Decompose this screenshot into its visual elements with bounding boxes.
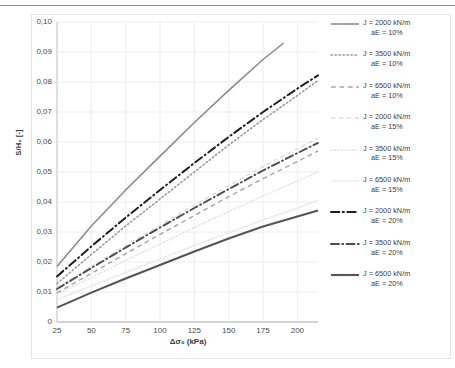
legend-item: J = 2000 kN/maE = 15% xyxy=(330,112,448,134)
legend-line-swatch xyxy=(330,237,360,251)
legend-item: J = 2000 kN/maE = 20% xyxy=(330,206,448,228)
series-line xyxy=(57,172,318,294)
y-tick-label: 0,10 xyxy=(18,17,52,26)
legend-label-line2: aE = 20% xyxy=(363,248,410,258)
series-line xyxy=(57,210,318,307)
legend-item: J = 2000 kN/maE = 10% xyxy=(330,18,448,40)
legend-label: J = 6500 kN/maE = 10% xyxy=(363,81,410,101)
legend-item: J = 6500 kN/maE = 15% xyxy=(330,175,448,197)
legend-label-line2: aE = 15% xyxy=(363,122,410,132)
legend-label-line1: J = 2000 kN/m xyxy=(363,206,410,215)
legend-label: J = 2000 kN/maE = 15% xyxy=(363,112,410,132)
legend-line-swatch xyxy=(330,205,360,219)
y-tick-label: 0,07 xyxy=(18,107,52,116)
legend-label: J = 6500 kN/maE = 15% xyxy=(363,175,410,195)
series-line xyxy=(57,75,318,276)
legend-item: J = 6500 kN/maE = 10% xyxy=(330,81,448,103)
legend-item: J = 3500 kN/maE = 20% xyxy=(330,238,448,260)
chart-legend: J = 2000 kN/maE = 10%J = 3500 kN/maE = 1… xyxy=(330,18,448,301)
y-tick-label: 0,05 xyxy=(18,167,52,176)
legend-label: J = 6500 kN/maE = 20% xyxy=(363,269,410,289)
legend-line-swatch xyxy=(330,174,360,188)
legend-label-line2: aE = 10% xyxy=(363,59,410,69)
legend-label-line2: aE = 15% xyxy=(363,153,410,163)
legend-label-line1: J = 6500 kN/m xyxy=(363,269,410,278)
y-tick-label: 0,01 xyxy=(18,287,52,296)
legend-line-swatch xyxy=(330,143,360,157)
y-tick-label: 0,04 xyxy=(18,197,52,206)
legend-label-line2: aE = 15% xyxy=(363,185,410,195)
legend-line-swatch xyxy=(330,268,360,282)
legend-label-line2: aE = 10% xyxy=(363,28,410,38)
legend-label: J = 2000 kN/maE = 20% xyxy=(363,206,410,226)
y-tick-label: 0,02 xyxy=(18,257,52,266)
legend-label-line2: aE = 20% xyxy=(363,279,410,289)
legend-item: J = 3500 kN/maE = 15% xyxy=(330,144,448,166)
legend-label: J = 3500 kN/maE = 10% xyxy=(363,49,410,69)
series-line xyxy=(57,143,318,289)
legend-label-line1: J = 6500 kN/m xyxy=(363,81,410,90)
x-axis-title: Δσ₀ (kPa) xyxy=(57,337,319,346)
chart-figure: S/H₀ [-] Δσ₀ (kPa) 00,010,020,030,040,05… xyxy=(0,0,455,368)
y-tick-label: 0 xyxy=(18,317,52,326)
y-tick-label: 0,03 xyxy=(18,227,52,236)
legend-line-swatch xyxy=(330,80,360,94)
y-tick-label: 0,09 xyxy=(18,47,52,56)
legend-item: J = 3500 kN/maE = 10% xyxy=(330,49,448,71)
legend-label: J = 3500 kN/maE = 20% xyxy=(363,238,410,258)
y-tick-label: 0,08 xyxy=(18,77,52,86)
legend-label-line1: J = 3500 kN/m xyxy=(363,49,410,58)
legend-label-line2: aE = 10% xyxy=(363,91,410,101)
legend-label: J = 2000 kN/maE = 10% xyxy=(363,18,410,38)
legend-label-line1: J = 6500 kN/m xyxy=(363,175,410,184)
legend-label-line1: J = 2000 kN/m xyxy=(363,112,410,121)
y-tick-label: 0,06 xyxy=(18,137,52,146)
legend-label-line1: J = 2000 kN/m xyxy=(363,18,410,27)
x-tick-label: 200 xyxy=(277,326,317,335)
legend-label-line2: aE = 20% xyxy=(363,216,410,226)
legend-line-swatch xyxy=(330,17,360,31)
legend-label-line1: J = 3500 kN/m xyxy=(363,144,410,153)
legend-line-swatch xyxy=(330,111,360,125)
legend-label: J = 3500 kN/maE = 15% xyxy=(363,144,410,164)
legend-item: J = 6500 kN/maE = 20% xyxy=(330,269,448,291)
legend-label-line1: J = 3500 kN/m xyxy=(363,238,410,247)
legend-line-swatch xyxy=(330,48,360,62)
